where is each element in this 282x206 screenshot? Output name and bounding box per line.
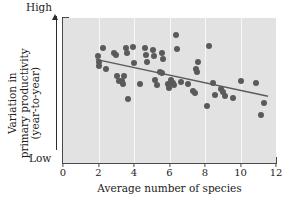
trendline-svg	[63, 18, 276, 163]
y-axis-label: Variation in primary productivity (year-…	[7, 33, 42, 173]
scatter-plot-figure: 024681012 Average number of species High…	[0, 0, 282, 206]
x-tick-label-2: 2	[95, 167, 101, 179]
trend-line	[96, 59, 268, 96]
plot-area	[63, 18, 276, 163]
y-axis-top-cap	[62, 17, 69, 18]
y-axis-arrow-shaft	[56, 16, 57, 150]
y-axis-arrow-head	[52, 14, 58, 20]
y-axis-label-line-3: (year-to-year)	[30, 33, 42, 173]
y-axis-line	[62, 17, 63, 164]
x-tick-label-10: 10	[234, 167, 247, 179]
x-tick-label-8: 8	[202, 167, 208, 179]
x-axis-label: Average number of species	[63, 182, 276, 194]
x-tick-label-6: 6	[166, 167, 172, 179]
x-tick-label-0: 0	[60, 167, 66, 179]
x-tick-label-12: 12	[270, 167, 282, 179]
y-axis-label-line-1: Variation in	[7, 33, 19, 173]
x-tick-label-4: 4	[131, 167, 137, 179]
y-axis-high-label: High	[26, 1, 52, 13]
